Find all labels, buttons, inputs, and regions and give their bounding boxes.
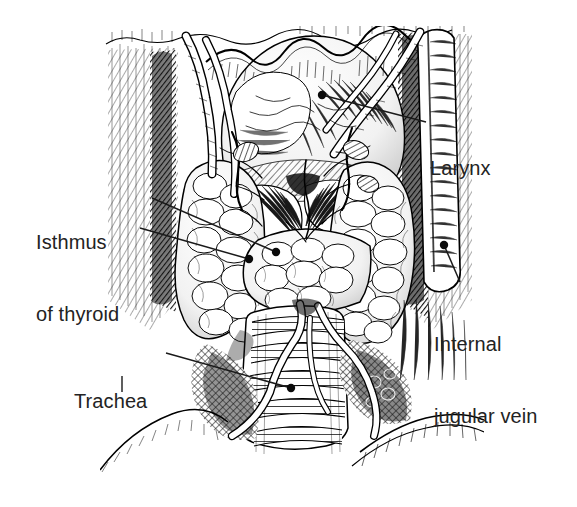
label-isthmus-line-2: of thyroid — [36, 302, 119, 326]
label-isthmus-line-1: Isthmus — [36, 230, 119, 254]
label-trachea: Trachea — [74, 341, 147, 461]
leader-dot-isthmus-1 — [272, 248, 280, 256]
leader-dot-jugular — [440, 241, 448, 249]
label-internal-jugular-vein: Internal jugular vein — [434, 284, 538, 476]
label-jugular-line-2: jugular vein — [434, 404, 538, 428]
leader-dot-trachea — [287, 384, 295, 392]
label-jugular-line-1: Internal — [434, 332, 538, 356]
label-larynx: Larynx — [430, 108, 491, 228]
label-trachea-line-1: Trachea — [74, 389, 147, 413]
label-larynx-line-1: Larynx — [430, 156, 491, 180]
leader-dot-larynx — [318, 91, 326, 99]
anatomical-figure: Larynx Isthmus of thyroid Internal jugul… — [0, 0, 577, 507]
leader-dot-isthmus-2 — [245, 255, 253, 263]
illustration-body — [100, 21, 484, 486]
